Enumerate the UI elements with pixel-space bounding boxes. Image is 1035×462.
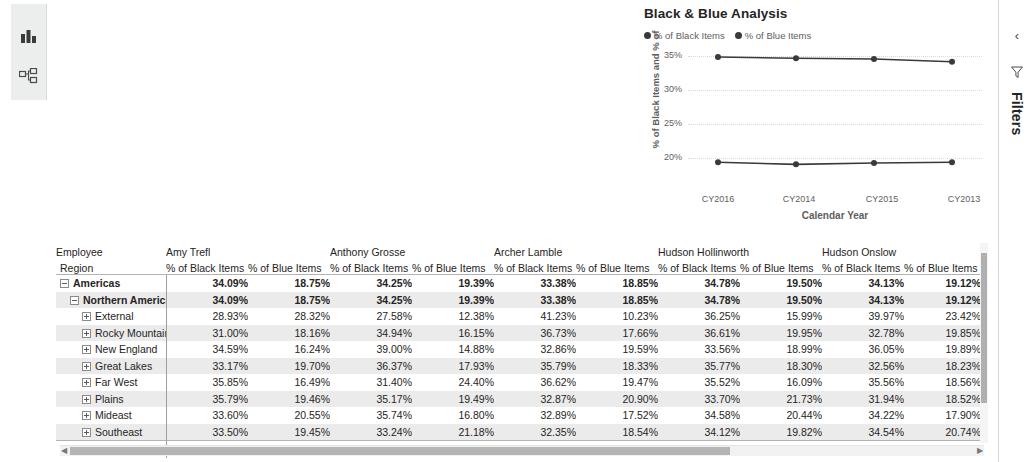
value-cell[interactable]: 27.58% [330, 308, 412, 325]
value-cell[interactable]: 16.49% [248, 374, 330, 391]
expand-icon[interactable] [82, 411, 91, 420]
value-cell[interactable]: 19.70% [248, 358, 330, 375]
value-cell[interactable]: 19.47% [576, 374, 658, 391]
row-label-cell[interactable]: Plains [56, 391, 166, 408]
chevron-left-icon[interactable]: ‹ [1015, 28, 1019, 43]
value-cell[interactable]: 34.78% [658, 292, 740, 309]
value-cell[interactable]: 35.74% [330, 407, 412, 424]
table-row[interactable]: External28.93%28.32%27.58%12.38%41.23%10… [56, 308, 981, 325]
value-cell[interactable]: 32.35% [494, 424, 576, 441]
expand-icon[interactable] [82, 428, 91, 437]
value-cell[interactable]: 19.49% [412, 391, 494, 408]
value-cell[interactable]: 34.22% [822, 407, 904, 424]
expand-icon[interactable] [82, 312, 91, 321]
value-cell[interactable]: 41.23% [494, 308, 576, 325]
value-cell[interactable]: 34.78% [658, 275, 740, 292]
table-row[interactable]: Americas34.09%18.75%34.25%19.39%33.38%18… [56, 275, 981, 292]
value-cell[interactable]: 18.85% [576, 292, 658, 309]
value-cell[interactable]: 19.45% [248, 424, 330, 441]
value-cell[interactable]: 34.13% [822, 292, 904, 309]
value-cell[interactable]: 18.99% [740, 341, 822, 358]
value-cell[interactable]: 34.12% [658, 424, 740, 441]
value-cell[interactable]: 32.89% [494, 407, 576, 424]
value-cell[interactable]: 33.60% [166, 407, 248, 424]
value-cell[interactable]: 34.25% [330, 292, 412, 309]
value-cell[interactable]: 31.00% [166, 325, 248, 342]
value-cell[interactable]: 18.16% [248, 325, 330, 342]
measure-header-blue[interactable]: % of Blue Items [904, 258, 981, 275]
value-cell[interactable]: 33.24% [330, 424, 412, 441]
row-label-cell[interactable]: Northern America [56, 292, 166, 309]
value-cell[interactable]: 19.50% [740, 292, 822, 309]
value-cell[interactable]: 19.39% [412, 275, 494, 292]
value-cell[interactable]: 19.59% [576, 341, 658, 358]
value-cell[interactable]: 20.74% [904, 424, 981, 441]
value-cell[interactable]: 17.90% [904, 407, 981, 424]
matrix-vertical-scrollbar[interactable] [980, 243, 988, 443]
table-row[interactable]: Southeast33.50%19.45%33.24%21.18%32.35%1… [56, 424, 981, 441]
value-cell[interactable]: 34.13% [822, 275, 904, 292]
bar-chart-icon[interactable] [19, 26, 39, 46]
value-cell[interactable]: 20.44% [740, 407, 822, 424]
value-cell[interactable]: 33.17% [166, 358, 248, 375]
employee-group-header[interactable]: Anthony Grosse [330, 243, 494, 258]
scroll-right-icon[interactable]: ▶ [977, 446, 983, 456]
value-cell[interactable]: 19.39% [412, 292, 494, 309]
value-cell[interactable]: 33.38% [494, 292, 576, 309]
value-cell[interactable]: 12.38% [412, 308, 494, 325]
value-cell[interactable]: 19.12% [904, 275, 981, 292]
value-cell[interactable]: 33.38% [494, 275, 576, 292]
value-cell[interactable]: 14.88% [412, 341, 494, 358]
employee-group-header[interactable]: Hudson Onslow [822, 243, 981, 258]
value-cell[interactable]: 34.58% [658, 407, 740, 424]
value-cell[interactable]: 35.52% [658, 374, 740, 391]
expand-icon[interactable] [82, 395, 91, 404]
table-row[interactable]: Plains35.79%19.46%35.17%19.49%32.87%20.9… [56, 391, 981, 408]
value-cell[interactable]: 21.18% [412, 424, 494, 441]
value-cell[interactable]: 32.78% [822, 325, 904, 342]
table-row[interactable]: Mideast33.60%20.55%35.74%16.80%32.89%17.… [56, 407, 981, 424]
table-row[interactable]: Great Lakes33.17%19.70%36.37%17.93%35.79… [56, 358, 981, 375]
value-cell[interactable]: 18.52% [904, 391, 981, 408]
matrix-horizontal-scrollbar[interactable]: ◀ ▶ [60, 445, 984, 456]
value-cell[interactable]: 20.55% [248, 407, 330, 424]
value-cell[interactable]: 31.94% [822, 391, 904, 408]
value-cell[interactable]: 34.59% [166, 341, 248, 358]
value-cell[interactable]: 36.37% [330, 358, 412, 375]
value-cell[interactable]: 35.79% [166, 391, 248, 408]
value-cell[interactable]: 36.62% [494, 374, 576, 391]
value-cell[interactable]: 36.25% [658, 308, 740, 325]
value-cell[interactable]: 39.97% [822, 308, 904, 325]
value-cell[interactable]: 33.50% [166, 424, 248, 441]
value-cell[interactable]: 17.66% [576, 325, 658, 342]
measure-header-blue[interactable]: % of Blue Items [740, 258, 822, 275]
measure-header-black[interactable]: % of Black Items [166, 258, 248, 275]
expand-icon[interactable] [82, 345, 91, 354]
value-cell[interactable]: 35.85% [166, 374, 248, 391]
measure-header-black[interactable]: % of Black Items [822, 258, 904, 275]
line-chart-visual[interactable]: Black & Blue Analysis % of Black Items %… [636, 2, 986, 230]
value-cell[interactable]: 32.86% [494, 341, 576, 358]
value-cell[interactable]: 16.15% [412, 325, 494, 342]
value-cell[interactable]: 36.73% [494, 325, 576, 342]
value-cell[interactable]: 21.73% [740, 391, 822, 408]
value-cell[interactable]: 36.05% [822, 341, 904, 358]
value-cell[interactable]: 31.40% [330, 374, 412, 391]
value-cell[interactable]: 17.52% [576, 407, 658, 424]
value-cell[interactable]: 24.40% [412, 374, 494, 391]
employee-group-header[interactable]: Hudson Hollinworth [658, 243, 822, 258]
measure-header-blue[interactable]: % of Blue Items [412, 258, 494, 275]
legend-item-blue[interactable]: % of Blue Items [735, 30, 812, 41]
value-cell[interactable]: 33.56% [658, 341, 740, 358]
row-label-cell[interactable]: Mideast [56, 407, 166, 424]
value-cell[interactable]: 16.09% [740, 374, 822, 391]
expand-icon[interactable] [82, 329, 91, 338]
value-cell[interactable]: 19.46% [248, 391, 330, 408]
value-cell[interactable]: 18.75% [248, 275, 330, 292]
value-cell[interactable]: 18.85% [576, 275, 658, 292]
value-cell[interactable]: 19.50% [740, 275, 822, 292]
value-cell[interactable]: 32.56% [822, 358, 904, 375]
value-cell[interactable]: 18.54% [576, 424, 658, 441]
row-label-cell[interactable]: External [56, 308, 166, 325]
expand-icon[interactable] [82, 378, 91, 387]
